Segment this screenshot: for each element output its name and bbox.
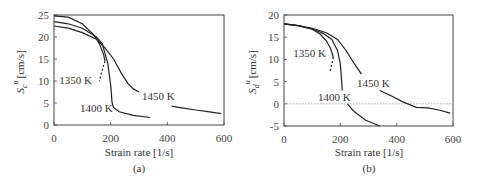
y-tick-label: 0: [44, 119, 50, 131]
x-tick-label: 200: [102, 132, 119, 144]
chart-a: 0510152025 0200400600 1350 K1400 K1450 K…: [11, 9, 233, 175]
x-axis-label-a: Strain rate [1/s]: [105, 146, 173, 158]
x-tick-label: 600: [445, 133, 462, 145]
x-tick-label: 0: [281, 133, 287, 145]
plot-frame-b: [284, 15, 453, 126]
y-tick-label: -5: [270, 120, 280, 132]
x-tick-label: 200: [332, 133, 349, 145]
y-tick-label: 5: [274, 76, 280, 88]
y-tick-label: 0: [274, 98, 280, 110]
x-tick-label: 600: [216, 132, 233, 144]
curve-label-1400k: 1400 K: [80, 102, 113, 114]
chart-b: -505101520 0200400600 1350 K1400 K1450 K…: [243, 9, 462, 175]
x-tick-label: 0: [51, 132, 57, 144]
curve-1350k-unstable: [330, 57, 334, 72]
x-axis-label-b: Strain rate [1/s]: [335, 146, 403, 158]
x-tick-label: 400: [388, 133, 405, 145]
y-tick-label: 10: [268, 53, 280, 65]
y-axis-label-a: Scu[cm/s]: [11, 50, 29, 93]
y-axis-label-b: Sdu[cm/s]: [243, 50, 261, 94]
curves-a: 1350 K1400 K1450 K: [54, 16, 221, 118]
y-tick-label: 5: [44, 97, 50, 109]
curve-1450k-branch: [380, 91, 450, 114]
svg-text:Scu[cm/s]: Scu[cm/s]: [11, 50, 29, 93]
curve-1350k-unstable: [99, 61, 105, 81]
curve-label-1450k: 1450 K: [142, 90, 175, 102]
y-tick-label: 20: [38, 31, 50, 43]
x-tick-label: 400: [159, 132, 176, 144]
caption-a: (a): [133, 162, 146, 175]
y-tick-label: 20: [268, 9, 280, 21]
y-tick-label: 25: [38, 9, 50, 21]
curve-1450k-branch: [172, 106, 222, 114]
y-tick-label: 10: [38, 75, 50, 87]
caption-b: (b): [363, 162, 376, 175]
curves-b: 1350 K1400 K1450 K: [284, 24, 450, 126]
curve-1400k-branch: [347, 104, 379, 126]
curve-label-1350k: 1350 K: [59, 74, 92, 86]
y-tick-label: 15: [268, 31, 280, 43]
curve-label-1350k: 1350 K: [293, 47, 326, 59]
figure-canvas: 0510152025 0200400600 1350 K1400 K1450 K…: [0, 0, 479, 181]
y-tick-label: 15: [38, 53, 50, 65]
curve-label-1400k: 1400 K: [318, 91, 351, 103]
curve-label-1450k: 1450 K: [357, 77, 390, 89]
svg-text:Sdu[cm/s]: Sdu[cm/s]: [243, 50, 261, 94]
